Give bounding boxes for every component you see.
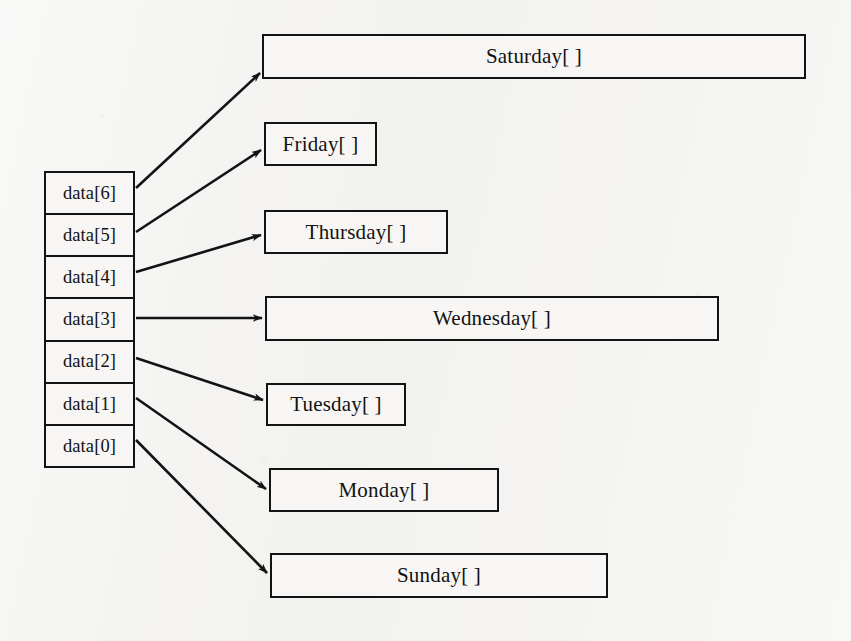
day-box-monday[interactable]: Monday[ ] (269, 468, 499, 512)
array-cell-0[interactable]: data[0] (46, 426, 133, 466)
array-cell-5[interactable]: data[5] (46, 215, 133, 257)
day-box-sunday[interactable]: Sunday[ ] (270, 553, 608, 598)
arrow-data2-to-tuesday (136, 358, 263, 400)
pointer-arrows (136, 73, 267, 573)
pointer-array: data[6] data[5] data[4] data[3] data[2] … (44, 171, 135, 468)
day-box-thursday[interactable]: Thursday[ ] (264, 210, 448, 254)
arrow-data1-to-monday (136, 398, 266, 489)
day-box-friday[interactable]: Friday[ ] (264, 122, 377, 166)
day-box-tuesday[interactable]: Tuesday[ ] (266, 383, 406, 426)
arrow-data6-to-saturday (136, 73, 260, 188)
arrow-data4-to-thursday (136, 235, 261, 272)
day-box-wednesday[interactable]: Wednesday[ ] (265, 296, 719, 341)
arrow-data0-to-sunday (136, 440, 267, 573)
arrow-data5-to-friday (136, 150, 261, 232)
diagram-canvas: data[6] data[5] data[4] data[3] data[2] … (0, 0, 851, 641)
array-cell-6[interactable]: data[6] (46, 173, 133, 215)
array-cell-1[interactable]: data[1] (46, 384, 133, 426)
array-cell-3[interactable]: data[3] (46, 299, 133, 341)
array-cell-2[interactable]: data[2] (46, 342, 133, 384)
day-box-saturday[interactable]: Saturday[ ] (262, 34, 806, 79)
array-cell-4[interactable]: data[4] (46, 257, 133, 299)
